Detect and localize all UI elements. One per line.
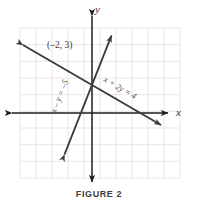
y-axis-label: y: [94, 3, 100, 15]
intersection-point-label: (–2, 3): [47, 40, 72, 51]
x-axis-label: x: [175, 106, 181, 118]
axis-lines: [12, 16, 168, 182]
equation-label-x-minus-y: x – y = –5: [48, 77, 71, 115]
coordinate-graph: x y (–2, 3) x – y = –5 x + 2y = 4: [0, 0, 198, 213]
grid-lines: [20, 28, 180, 178]
figure-caption: FIGURE 2: [0, 189, 198, 199]
figure-container: x y (–2, 3) x – y = –5 x + 2y = 4 FIGURE…: [0, 0, 198, 213]
